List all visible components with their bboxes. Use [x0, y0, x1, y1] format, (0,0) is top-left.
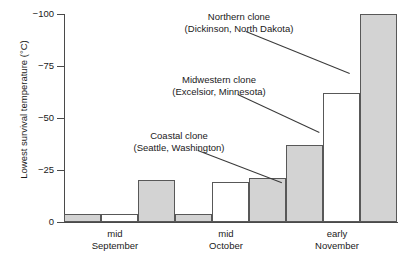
- y-tick-label-zero: 0: [14, 216, 54, 227]
- x-group-label-mid-october-line2: October: [166, 240, 286, 252]
- bar-midwestern-mid-october: [212, 182, 249, 222]
- annotation-midwestern-line2: (Excelsior, Minnesota): [136, 86, 302, 98]
- bar-northern-mid-september: [138, 180, 175, 222]
- y-tick-mark-zero: [57, 222, 64, 223]
- bar-midwestern-early-november: [323, 93, 360, 222]
- y-tick-label-minus50: −50: [14, 112, 54, 123]
- bar-northern-mid-october: [249, 178, 286, 222]
- x-group-label-mid-october-line1: mid: [166, 228, 286, 240]
- bar-coastal-early-november: [286, 145, 323, 222]
- x-group-label-early-november-line2: November: [277, 240, 397, 252]
- y-tick-label-minus25: −25: [14, 164, 54, 175]
- x-axis-line: [64, 222, 398, 223]
- annotation-midwestern-line1: Midwestern clone: [136, 74, 302, 86]
- y-tick-label-minus100: −100: [14, 8, 54, 19]
- x-group-label-mid-october: mid October: [166, 228, 286, 251]
- x-group-label-mid-september-line2: September: [55, 240, 175, 252]
- y-tick-mark-minus75: [57, 66, 64, 67]
- annotation-coastal-line1: Coastal clone: [96, 130, 262, 142]
- bar-chart-figure: Lowest survival temperature (°C) −100 −7…: [0, 0, 404, 268]
- x-group-label-mid-september: mid September: [55, 228, 175, 251]
- bar-midwestern-mid-september: [101, 214, 138, 222]
- bar-northern-early-november: [360, 14, 397, 222]
- y-tick-mark-minus100: [57, 14, 64, 15]
- plot-area: [64, 14, 396, 222]
- bar-coastal-mid-october: [175, 214, 212, 222]
- annotation-northern-clone: Northern clone (Dickinson, North Dakota): [156, 11, 322, 34]
- annotation-northern-line2: (Dickinson, North Dakota): [156, 23, 322, 35]
- y-tick-mark-minus25: [57, 170, 64, 171]
- y-tick-label-minus75: −75: [14, 60, 54, 71]
- x-group-label-mid-september-line1: mid: [55, 228, 175, 240]
- x-group-label-early-november: early November: [277, 228, 397, 251]
- x-group-label-early-november-line1: early: [277, 228, 397, 240]
- annotation-midwestern-clone: Midwestern clone (Excelsior, Minnesota): [136, 74, 302, 97]
- bar-coastal-mid-september: [64, 214, 101, 222]
- y-tick-mark-minus50: [57, 118, 64, 119]
- annotation-coastal-clone: Coastal clone (Seattle, Washington): [96, 130, 262, 153]
- annotation-coastal-line2: (Seattle, Washington): [96, 142, 262, 154]
- annotation-northern-line1: Northern clone: [156, 11, 322, 23]
